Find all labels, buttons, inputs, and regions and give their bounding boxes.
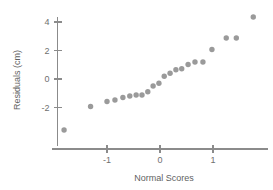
data-point (251, 14, 256, 19)
data-point (192, 59, 197, 64)
y-axis-title: Residuals (cm) (12, 50, 22, 110)
data-points-layer (61, 14, 256, 132)
data-point (127, 93, 132, 98)
scatter-plot-canvas: -2024 -101 Normal Scores Residuals (cm) (0, 0, 273, 190)
data-point (104, 99, 109, 104)
data-point (139, 92, 144, 97)
x-tick-label: 1 (210, 155, 215, 165)
x-tick-label: -1 (103, 155, 111, 165)
y-tick-label: 0 (44, 74, 49, 84)
data-point (133, 92, 138, 97)
data-point (88, 104, 93, 109)
data-point (120, 95, 125, 100)
data-point (200, 59, 205, 64)
data-point (156, 81, 161, 86)
y-tick-label: 4 (44, 17, 49, 27)
normal-probability-plot-figure: -2024 -101 Normal Scores Residuals (cm) (0, 0, 273, 190)
x-axis: -101 (52, 145, 268, 165)
data-point (179, 66, 184, 71)
data-point (173, 67, 178, 72)
data-point (234, 35, 239, 40)
data-point (112, 97, 117, 102)
data-point (150, 83, 155, 88)
data-point (61, 127, 66, 132)
x-axis-title: Normal Scores (134, 173, 194, 183)
x-tick-label: 0 (157, 155, 162, 165)
data-point (145, 89, 150, 94)
data-point (162, 74, 167, 79)
data-point (167, 71, 172, 76)
y-axis: -2024 (41, 17, 61, 146)
y-tick-label: -2 (41, 103, 49, 113)
y-tick-label: 2 (44, 46, 49, 56)
data-point (185, 62, 190, 67)
data-point (224, 35, 229, 40)
data-point (209, 47, 214, 52)
